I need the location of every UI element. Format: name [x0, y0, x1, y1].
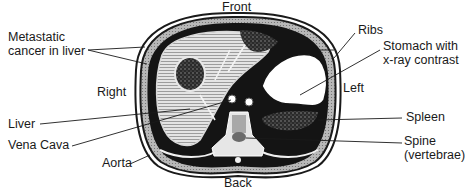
aorta: [245, 98, 253, 106]
abdominal-cross-section-diagram: Front Back Right Left Metastatic cancer …: [0, 0, 467, 192]
label-right: Right: [97, 86, 126, 99]
label-spine-line2: (vertebrae): [404, 149, 465, 162]
label-back: Back: [224, 177, 252, 190]
cross-section-illustration: [0, 0, 467, 192]
label-ribs: Ribs: [358, 24, 383, 37]
label-left: Left: [343, 82, 364, 95]
metastatic-tumor: [175, 57, 205, 91]
label-spine-line1: Spine: [404, 135, 436, 148]
label-stomach-line1: Stomach with: [383, 40, 458, 53]
label-metastatic-cancer-line1: Metastatic: [8, 31, 65, 44]
label-aorta: Aorta: [102, 157, 132, 170]
label-vena-cava: Vena Cava: [8, 139, 69, 152]
label-front: Front: [222, 1, 251, 14]
label-metastatic-cancer-line2: cancer in liver: [8, 45, 85, 58]
label-liver: Liver: [8, 118, 35, 131]
label-stomach-line2: x-ray contrast: [383, 54, 459, 67]
vena-cava: [228, 95, 236, 103]
label-spleen: Spleen: [406, 111, 445, 124]
